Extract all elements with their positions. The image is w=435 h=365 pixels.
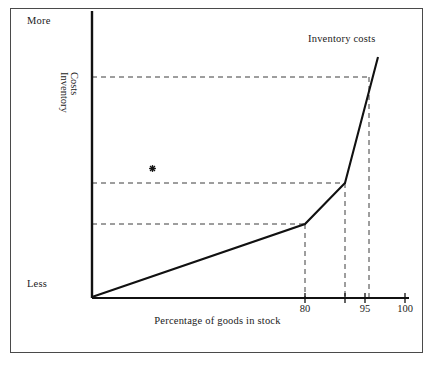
asterisk-marker	[148, 164, 157, 173]
x-tick-label-100: 100	[397, 303, 413, 314]
series-line-inventory-costs	[92, 57, 378, 297]
x-tick-label-80: 80	[300, 303, 311, 314]
y-axis-bottom-label: Less	[27, 278, 47, 289]
series-label-inventory-costs: Inventory costs	[308, 33, 375, 44]
guide-lines	[92, 77, 370, 297]
y-axis-title-line-costs: Costs	[69, 72, 80, 95]
x-axis-caption: Percentage of goods in stock	[0, 315, 435, 326]
figure-container: More Less Inventory costs Costs Inventor…	[0, 0, 435, 365]
y-axis-title-line-inventory: Inventory	[59, 72, 70, 113]
x-tick-label-95: 95	[360, 303, 371, 314]
y-axis-top-label: More	[27, 15, 51, 26]
y-axis-title: Costs Inventory	[62, 72, 88, 142]
